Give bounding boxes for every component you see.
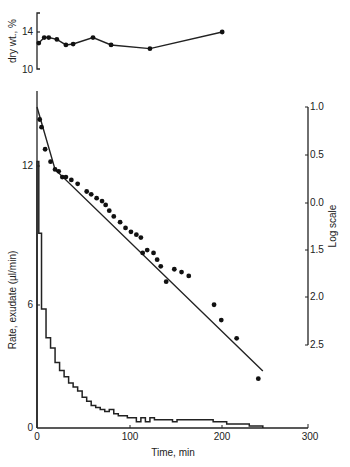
data-point: [75, 181, 80, 186]
data-point: [43, 147, 48, 152]
right-tick: 2.5: [310, 339, 324, 350]
data-point: [107, 208, 112, 213]
data-point: [151, 251, 156, 256]
data-point: [172, 267, 177, 272]
data-point: [219, 318, 224, 323]
exudate-rate-histogram: [37, 162, 263, 429]
right-tick: 2.0: [310, 291, 324, 302]
right-tick: 1.0: [310, 101, 324, 112]
data-point: [118, 220, 123, 225]
data-point: [91, 35, 96, 40]
x-tick-100: 100: [122, 431, 139, 442]
data-point: [64, 175, 69, 180]
data-point: [89, 192, 94, 197]
data-point: [37, 117, 42, 122]
top-panel: 14 10 dry wt., %: [7, 13, 225, 75]
data-point: [111, 214, 116, 219]
data-point: [69, 178, 74, 183]
right-tick: 1.5: [310, 244, 324, 255]
data-point: [148, 46, 153, 51]
right-tick: 0.0: [310, 197, 324, 208]
data-point: [123, 226, 128, 231]
data-point: [54, 37, 59, 42]
data-point: [48, 159, 53, 164]
data-point: [158, 264, 163, 269]
data-point: [145, 248, 150, 253]
top-tick-14: 14: [22, 26, 34, 37]
log-scale-scatter: [37, 107, 263, 381]
data-point: [109, 43, 114, 48]
x-tick-200: 200: [214, 431, 231, 442]
x-tick-300: 300: [302, 431, 319, 442]
data-point: [94, 196, 99, 201]
left-tick-0: 0: [27, 422, 33, 433]
data-point: [179, 270, 184, 275]
left-tick-12: 12: [22, 160, 34, 171]
data-point: [100, 199, 105, 204]
right-y-axis-label: Log scale: [327, 204, 338, 247]
data-point: [138, 235, 143, 240]
top-y-axis-label: dry wt., %: [7, 19, 18, 63]
dry-weight-series: [36, 30, 224, 51]
data-point: [164, 279, 169, 284]
data-point: [39, 125, 44, 130]
top-tick-10: 10: [22, 64, 34, 75]
data-point: [42, 35, 47, 40]
left-tick-6: 6: [27, 299, 33, 310]
data-point: [134, 232, 139, 237]
data-point: [84, 189, 89, 194]
data-point: [220, 30, 225, 35]
data-point: [155, 257, 160, 262]
data-point: [256, 376, 261, 381]
data-point: [71, 42, 76, 47]
data-point: [212, 302, 217, 307]
data-point: [36, 41, 41, 46]
data-point: [129, 229, 134, 234]
data-point: [56, 169, 61, 174]
main-panel: 12 6 0 Rate, exudate (µl/min) 0 100 200 …: [7, 91, 338, 458]
x-tick-0: 0: [34, 431, 40, 442]
left-y-axis-label: Rate, exudate (µl/min): [7, 251, 18, 350]
right-tick: 0.5: [310, 149, 324, 160]
x-axis-label: Time, min: [151, 447, 195, 458]
data-point: [186, 274, 191, 279]
chart-canvas: 14 10 dry wt., % 12 6 0 Rate, exudate (µ…: [0, 0, 350, 467]
data-point: [46, 35, 51, 40]
data-point: [234, 336, 239, 341]
data-point: [64, 43, 69, 48]
data-point: [140, 251, 145, 256]
data-point: [103, 203, 108, 208]
